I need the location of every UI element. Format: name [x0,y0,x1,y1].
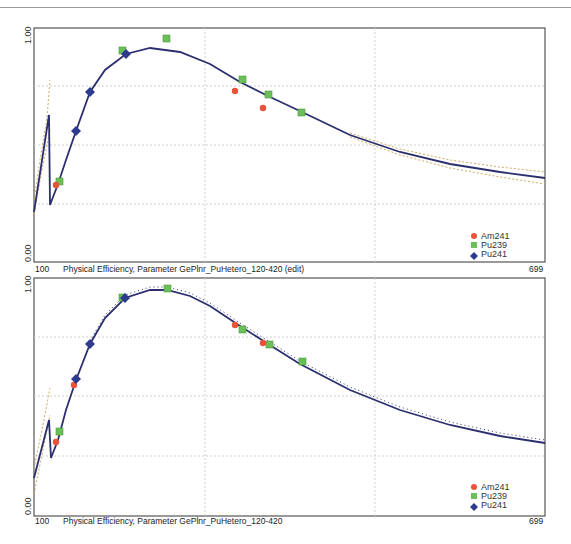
y-min-label: 0.00 [23,497,33,515]
x-min-label: 100 [35,516,49,526]
am241-legend-icon [471,233,477,239]
y-max-label: 1.00 [23,26,33,44]
legend-label-pu241: Pu241 [481,249,507,259]
am241-legend-icon [471,484,477,490]
legend: Am241 Pu239 Pu241 [470,231,510,260]
chart-caption: Physical Efficiency, Parameter GePlnr_Pu… [63,516,283,526]
pu239-legend-icon [471,493,477,499]
chart-panel-bottom: 1.00 0.00 100 Physical Efficiency, Param… [23,275,545,526]
chart-caption: Physical Efficiency, Parameter GePlnr_Pu… [63,264,304,274]
y-min-label: 0.00 [23,244,33,262]
x-min-label: 100 [35,264,49,274]
y-max-label: 1.00 [23,275,33,293]
x-max-label: 699 [529,516,543,526]
chart-panel-top: 1.00 0.00 100 Physical Efficiency, Param… [23,26,545,274]
legend-label-pu241: Pu241 [481,500,507,510]
charts-canvas: 1.00 0.00 100 Physical Efficiency, Param… [0,0,571,544]
pu239-legend-icon [471,242,477,248]
legend: Am241 Pu239 Pu241 [470,482,510,511]
plot-frame [34,278,545,516]
x-max-label: 699 [529,264,543,274]
